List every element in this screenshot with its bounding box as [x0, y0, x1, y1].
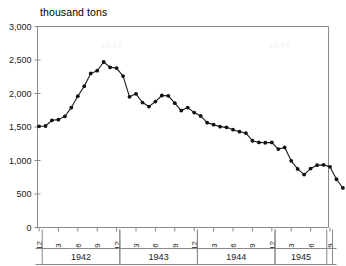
- data-point: [115, 66, 119, 70]
- x-tick-label: 6: [74, 243, 83, 248]
- chart-container: thousand tons 1942 1945 05001,0001,5002,…: [0, 0, 346, 266]
- data-point: [44, 124, 48, 128]
- data-point: [95, 69, 99, 73]
- y-tick-label: 0: [26, 223, 31, 233]
- x-tick-label: 3: [54, 243, 63, 248]
- line-chart-svg: 05001,0001,5002,0002,5003,000 1236912369…: [0, 0, 346, 266]
- data-point: [141, 101, 145, 105]
- data-point: [315, 163, 319, 167]
- x-tick-label: 9: [171, 243, 180, 248]
- data-point: [283, 146, 287, 150]
- data-point: [166, 94, 170, 98]
- data-point: [244, 131, 248, 135]
- year-group-label: 1945: [291, 252, 311, 262]
- data-point: [225, 125, 229, 129]
- data-point: [270, 141, 274, 145]
- x-axis-ticks-group: 12369123691236912369: [35, 228, 335, 250]
- year-group-label: 1942: [71, 252, 91, 262]
- data-point: [102, 60, 106, 64]
- data-point: [69, 106, 73, 110]
- data-point: [108, 65, 112, 69]
- data-point: [179, 109, 183, 113]
- data-point: [322, 163, 326, 167]
- data-point: [50, 118, 54, 122]
- x-tick-label: 9: [248, 243, 257, 248]
- data-point: [160, 94, 164, 98]
- data-point: [302, 173, 306, 177]
- x-tick-label: 6: [151, 243, 160, 248]
- data-point: [289, 159, 293, 163]
- year-group-label: 1944: [226, 252, 246, 262]
- y-tick-label: 500: [16, 189, 31, 199]
- data-point: [173, 101, 177, 105]
- x-tick-label: 3: [132, 243, 141, 248]
- data-point: [63, 114, 67, 118]
- data-point: [147, 105, 151, 109]
- data-point: [57, 118, 61, 122]
- y-tick-label: 1,000: [9, 156, 32, 166]
- data-point: [335, 177, 339, 181]
- data-point: [238, 130, 242, 134]
- data-point: [212, 123, 216, 127]
- data-point: [328, 165, 332, 169]
- data-point: [76, 94, 80, 98]
- data-point: [192, 111, 196, 115]
- data-point: [231, 128, 235, 132]
- data-point: [251, 139, 255, 143]
- data-markers-group: [37, 60, 345, 190]
- y-tick-label: 1,500: [9, 122, 32, 132]
- data-point: [205, 121, 209, 125]
- data-point: [276, 147, 280, 151]
- x-tick-label: 6: [307, 243, 316, 248]
- data-point: [296, 167, 300, 171]
- y-tick-label: 2,500: [9, 55, 32, 65]
- x-tick-label: 3: [210, 243, 219, 248]
- data-point: [199, 114, 203, 118]
- data-point: [341, 186, 345, 190]
- data-point: [89, 72, 93, 76]
- data-point: [37, 124, 41, 128]
- x-tick-label: 9: [326, 243, 335, 248]
- data-point: [128, 95, 132, 99]
- data-point: [218, 125, 222, 129]
- data-point: [154, 100, 158, 104]
- data-point: [257, 141, 261, 145]
- data-point: [82, 84, 86, 88]
- year-group-label: 1943: [149, 252, 169, 262]
- data-point: [134, 92, 138, 96]
- data-point: [121, 74, 125, 78]
- data-point: [263, 141, 267, 145]
- data-point: [309, 167, 313, 171]
- y-tick-label: 3,000: [9, 22, 32, 32]
- y-axis-ticks-group: 05001,0001,5002,0002,5003,000: [9, 22, 41, 233]
- data-point: [186, 106, 190, 110]
- x-tick-label: 3: [287, 243, 296, 248]
- x-tick-label: 6: [229, 243, 238, 248]
- x-tick-label: 9: [93, 243, 102, 248]
- y-tick-label: 2,000: [9, 89, 32, 99]
